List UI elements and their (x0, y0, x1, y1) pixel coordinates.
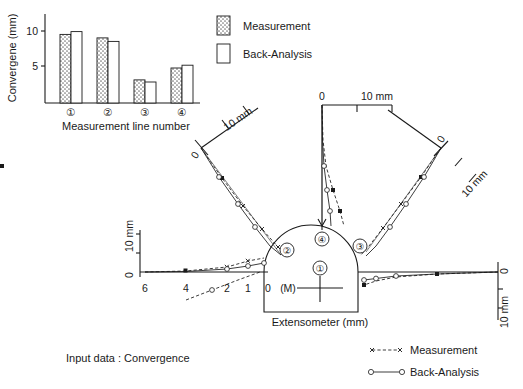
bar-measurement-4 (171, 68, 182, 103)
legend-swatch-measurement (217, 16, 230, 35)
origin-m-label: (M) (280, 282, 296, 294)
bar-measurement-2 (97, 38, 108, 103)
marker-label-4: ④ (318, 234, 327, 245)
legend-x-marker-end-icon (398, 348, 402, 352)
figure-caption-left: Input data : Convergence (66, 352, 190, 364)
bottom-right-zero-label: 0 (498, 268, 510, 274)
marker-line-1: ① (313, 261, 327, 275)
legend-label-measurement: Measurement (243, 20, 310, 32)
upper-right-baseline (388, 110, 441, 148)
upper-right-tick-5 (455, 158, 462, 166)
line3-measurement-curve (360, 148, 441, 256)
marker-line-3: ③ (353, 239, 367, 253)
legend-circle-marker-start-icon (368, 369, 373, 374)
bottom-tick-label-1: 1 (245, 282, 251, 294)
tunnel-diagram-legend: Measurement Back-Analysis (368, 344, 479, 378)
line2-measurement-curve (201, 148, 288, 255)
line4-back-analysis-markers (322, 164, 333, 214)
bar-x-axis-label: Measurement line number (62, 120, 190, 132)
bar-back-analysis-2 (108, 41, 119, 103)
bottom-right-unit-label: 10 mm (498, 296, 510, 328)
bar-xtick-label-4: ④ (177, 106, 186, 118)
bottom-tick-label-4: 4 (183, 282, 189, 294)
line3-measurement-markers (381, 175, 423, 230)
bar-y-axis-label: Convergene (mm) (6, 14, 18, 103)
upper-right-unit-label: 10 mm (459, 167, 490, 199)
legend-swatch-back-analysis (217, 44, 230, 63)
bar-chart: 5 10 Convergene (mm) ① ② ③ ④ Measurement… (6, 14, 200, 132)
bar-measurement-1 (60, 34, 71, 103)
line1-back-analysis-markers (225, 261, 267, 272)
line2-secondary-marker (210, 288, 215, 293)
line1-measurement-markers (184, 259, 250, 273)
legend2-label-measurement: Measurement (410, 344, 477, 356)
bar-xtick-label-2: ② (103, 106, 112, 118)
bar-xtick-label-3: ③ (140, 106, 149, 118)
bottom-tick-label-0: 0 (265, 282, 271, 294)
upper-right-zero-label: 0 (434, 133, 447, 145)
line2-measurement-markers (220, 176, 280, 249)
top-center-zero-label: 0 (319, 90, 325, 102)
bar-chart-legend: Measurement Back-Analysis (217, 16, 313, 63)
marker-line-4: ④ (315, 232, 329, 246)
legend-label-back-analysis: Back-Analysis (243, 48, 313, 60)
tunnel-center-cross (297, 276, 343, 302)
tunnel-outline (264, 225, 358, 312)
legend-circle-marker-end-icon (399, 369, 404, 374)
bar-back-analysis-1 (71, 32, 82, 103)
axis-upper-right: 0 10 mm (360, 110, 490, 256)
top-center-unit-label: 10 mm (361, 90, 393, 102)
bar-xtick-label-1: ① (66, 106, 75, 118)
figure-root: 5 10 Convergene (mm) ① ② ③ ④ Measurement… (0, 0, 523, 389)
axis-bottom-right: 0 10 mm (358, 262, 510, 328)
marker-label-1: ① (316, 263, 325, 274)
line2-ray (201, 148, 281, 255)
marker-label-2: ② (283, 245, 292, 256)
line4-measurement-markers (0, 164, 342, 213)
extensometer-axis-label: Extensometer (mm) (272, 316, 369, 328)
figure-canvas: 5 10 Convergene (mm) ① ② ③ ④ Measurement… (0, 0, 523, 389)
bar-measurement-3 (134, 80, 145, 103)
marker-label-3: ③ (356, 241, 365, 252)
line5-back-analysis-curve (364, 272, 498, 280)
bar-ytick-label-5: 5 (32, 60, 38, 72)
bar-back-analysis-3 (145, 82, 156, 103)
bottom-left-unit-label: 10 mm (123, 220, 135, 252)
bottom-tick-label-6: 6 (142, 282, 148, 294)
bar-ytick-label-10: 10 (26, 25, 38, 37)
marker-line-2: ② (280, 243, 294, 257)
upper-left-unit-label: 10 mm (221, 104, 254, 132)
upper-left-zero-label: 0 (188, 149, 201, 161)
bottom-left-zero-label: 0 (123, 272, 135, 278)
legend2-label-back-analysis: Back-Analysis (410, 366, 480, 378)
bar-back-analysis-4 (182, 65, 193, 103)
